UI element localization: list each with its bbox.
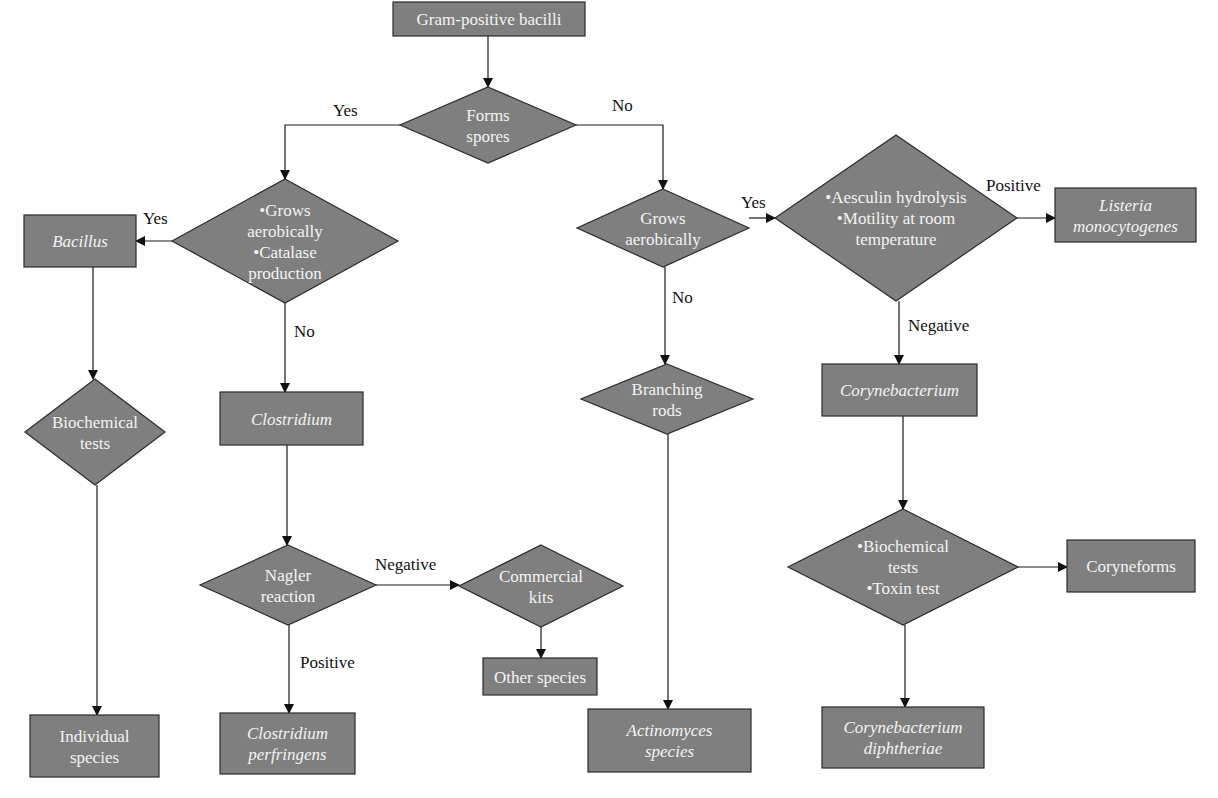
- edge-label: Negative: [375, 555, 436, 574]
- node-label: Nagler: [265, 566, 312, 585]
- node-label: perfringens: [247, 745, 327, 764]
- process-box: [220, 713, 355, 774]
- edge-nagler-to-commercial_kits: Negative: [375, 555, 459, 585]
- node-nagler: Naglerreaction: [200, 545, 376, 625]
- edge-label: No: [672, 288, 693, 307]
- edge-grows_aerobically-to-aesculin: Yes: [741, 193, 775, 218]
- node-bacillus: Bacillus: [24, 215, 136, 267]
- node-label: Commercial: [499, 567, 583, 586]
- connector-arrow: [576, 125, 663, 189]
- node-label: Biochemical: [52, 413, 138, 432]
- node-label: Grows: [640, 209, 685, 228]
- node-label: Individual: [60, 727, 130, 746]
- node-label: Listeria: [1098, 196, 1152, 215]
- node-commercial-kits: Commercialkits: [459, 545, 623, 627]
- flowchart-canvas: YesNoYesNoYesNoPositiveNegativeNegativeP…: [0, 0, 1218, 798]
- edge-grows_aerobically-to-branching_rods: No: [665, 267, 693, 364]
- decision-diamond: [400, 87, 576, 163]
- node-label: •Grows: [259, 201, 310, 220]
- decision-diamond: [200, 545, 376, 625]
- node-biochem-toxin: •Biochemicaltests•Toxin test: [788, 509, 1018, 625]
- node-label: Branching: [632, 380, 703, 399]
- node-label: rods: [652, 401, 681, 420]
- connector-arrow: [285, 125, 400, 179]
- edge-label: Yes: [333, 101, 358, 120]
- edge-nagler-to-c_perfringens: Positive: [289, 625, 355, 713]
- node-label: spores: [466, 127, 509, 146]
- edge-forms_spores-to-grows_aerobically: No: [576, 96, 663, 189]
- node-label: kits: [529, 588, 554, 607]
- node-forms-spores: Formsspores: [400, 87, 576, 163]
- node-label: Clostridium: [251, 410, 332, 429]
- decision-diamond: [581, 364, 753, 434]
- node-gram-pos: Gram-positive bacilli: [393, 2, 585, 36]
- node-branching-rods: Branchingrods: [581, 364, 753, 434]
- node-label: Actinomyces: [626, 721, 713, 740]
- edge-label: No: [612, 96, 633, 115]
- edge-label: Positive: [300, 653, 355, 672]
- node-label: temperature: [855, 230, 936, 249]
- node-label: Corynebacterium: [844, 718, 963, 737]
- node-c-diphtheriae: Corynebacteriumdiphtheriae: [822, 707, 984, 768]
- edge-label: Positive: [986, 176, 1041, 195]
- decision-diamond: [459, 545, 623, 627]
- node-label: reaction: [261, 587, 316, 606]
- decision-diamond: [172, 179, 398, 303]
- node-biochem-left: Biochemicaltests: [25, 379, 165, 485]
- node-listeria: Listeriamonocytogenes: [1055, 188, 1196, 242]
- node-label: tests: [80, 434, 110, 453]
- edge-label: No: [294, 322, 315, 341]
- node-label: tests: [888, 558, 918, 577]
- node-label: Bacillus: [52, 232, 108, 251]
- edge-forms_spores-to-grows_catalase: Yes: [285, 101, 400, 179]
- decision-diamond: [25, 379, 165, 485]
- process-box: [30, 715, 159, 777]
- node-label: species: [70, 748, 119, 767]
- node-label: •Motility at room: [837, 209, 955, 228]
- edge-aesculin-to-corynebacterium: Negative: [899, 301, 969, 364]
- edge-grows_catalase-to-clostridium: No: [285, 303, 315, 392]
- node-label: diphtheriae: [864, 739, 943, 758]
- node-label: Forms: [466, 106, 509, 125]
- node-label: •Aesculin hydrolysis: [825, 188, 966, 207]
- node-other-species: Other species: [483, 658, 597, 695]
- node-label: Clostridium: [247, 724, 328, 743]
- node-label: •Biochemical: [857, 537, 949, 556]
- node-label: monocytogenes: [1073, 217, 1178, 236]
- nodes-layer: Gram-positive bacilliFormsspores•Growsae…: [24, 2, 1196, 777]
- edge-label: Yes: [741, 193, 766, 212]
- node-grows-catalase: •Growsaerobically•Catalaseproduction: [172, 179, 398, 303]
- edge-grows_catalase-to-bacillus: Yes: [136, 209, 172, 241]
- edge-label: Negative: [908, 316, 969, 335]
- node-individual-species: Individualspecies: [30, 715, 159, 777]
- node-coryneforms: Coryneforms: [1067, 540, 1195, 592]
- node-label: species: [645, 742, 694, 761]
- node-label: production: [248, 264, 322, 283]
- node-label: Coryneforms: [1086, 557, 1176, 576]
- edge-label: Yes: [143, 209, 168, 228]
- node-label: aerobically: [247, 222, 323, 241]
- node-aesculin: •Aesculin hydrolysis•Motility at roomtem…: [775, 135, 1017, 301]
- node-label: •Catalase: [253, 243, 317, 262]
- node-label: Corynebacterium: [840, 381, 959, 400]
- node-actinomyces: Actinomycesspecies: [588, 709, 751, 772]
- node-corynebacterium: Corynebacterium: [822, 364, 977, 416]
- process-box: [588, 709, 751, 772]
- node-label: aerobically: [625, 230, 701, 249]
- node-label: •Toxin test: [866, 579, 940, 598]
- decision-diamond: [577, 189, 749, 267]
- node-grows-aerobically: Growsaerobically: [577, 189, 749, 267]
- node-clostridium: Clostridium: [220, 392, 363, 445]
- process-box: [822, 707, 984, 768]
- node-label: Other species: [494, 668, 586, 687]
- node-c-perfringens: Clostridiumperfringens: [220, 713, 355, 774]
- node-label: Gram-positive bacilli: [417, 10, 562, 29]
